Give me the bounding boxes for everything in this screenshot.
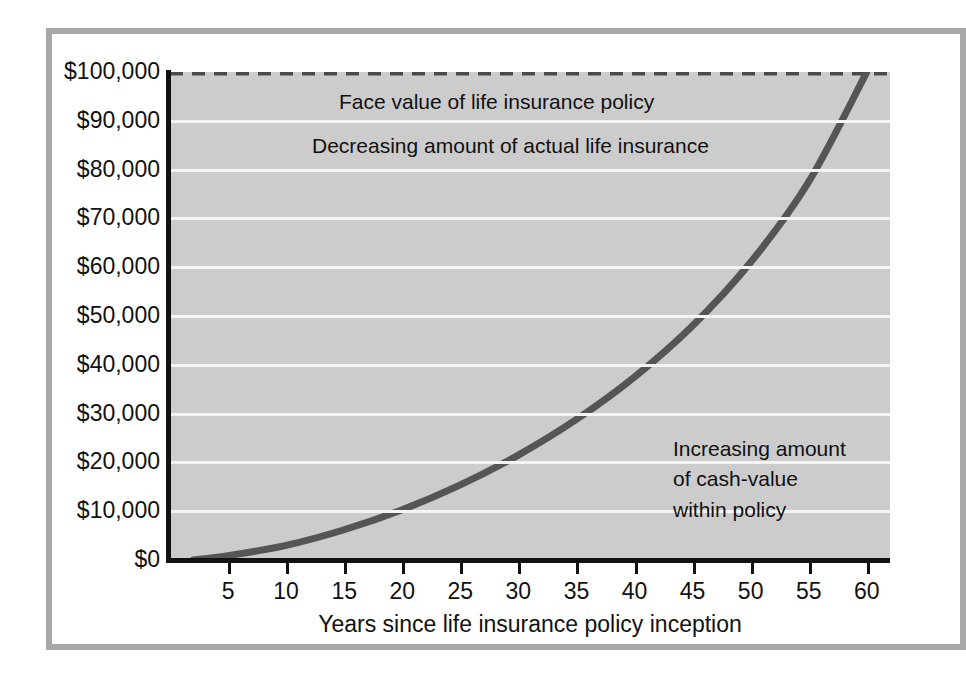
y-axis-label: $20,000: [10, 450, 160, 473]
y-axis-label: $100,000: [10, 60, 160, 83]
annotation-increasing-cash-value: Increasing amount of cash-value within p…: [673, 434, 846, 525]
x-axis-label: 60: [837, 578, 897, 605]
y-axis-label: $70,000: [10, 206, 160, 229]
x-axis-tick: [286, 563, 289, 574]
y-axis-label: $30,000: [10, 402, 160, 425]
x-axis-tick: [751, 563, 754, 574]
x-axis-tick: [228, 563, 231, 574]
x-axis-label: 15: [314, 578, 374, 605]
y-axis-label: $80,000: [10, 158, 160, 181]
annotation-decreasing-insurance: Decreasing amount of actual life insuran…: [312, 131, 709, 161]
x-axis-tick: [518, 563, 521, 574]
gridline: [170, 315, 890, 318]
x-axis-tick: [809, 563, 812, 574]
gridline: [170, 217, 890, 220]
x-axis-label: 55: [779, 578, 839, 605]
plot-area: Face value of life insurance policy Decr…: [170, 72, 890, 560]
x-axis-tick: [576, 563, 579, 574]
y-axis-line: [166, 70, 171, 562]
x-axis-label: 35: [546, 578, 606, 605]
gridline: [170, 413, 890, 416]
y-axis-label: $0: [10, 548, 160, 571]
y-axis-label: $10,000: [10, 499, 160, 522]
y-axis-label: $90,000: [10, 109, 160, 132]
x-axis-tick: [635, 563, 638, 574]
gridline: [170, 266, 890, 269]
x-axis-label: 5: [198, 578, 258, 605]
gridline: [170, 169, 890, 172]
x-axis-line: [166, 558, 890, 563]
x-axis-tick: [460, 563, 463, 574]
gridline: [170, 120, 890, 123]
x-axis-label: 25: [430, 578, 490, 605]
x-axis-label: 20: [372, 578, 432, 605]
y-axis-labels-group: $0$10,000$20,000$30,000$40,000$50,000$60…: [8, 0, 160, 673]
y-axis-label: $40,000: [10, 353, 160, 376]
x-axis-label: 50: [721, 578, 781, 605]
x-axis-label: 40: [605, 578, 665, 605]
x-axis-title: Years since life insurance policy incept…: [170, 611, 890, 638]
y-axis-label: $50,000: [10, 304, 160, 327]
x-axis-tick: [402, 563, 405, 574]
gridline: [170, 364, 890, 367]
x-axis-label: 30: [488, 578, 548, 605]
x-axis-tick: [867, 563, 870, 574]
x-axis-label: 45: [663, 578, 723, 605]
annotation-face-value: Face value of life insurance policy: [339, 87, 654, 117]
y-axis-label: $60,000: [10, 255, 160, 278]
x-axis-tick: [693, 563, 696, 574]
x-axis-tick: [344, 563, 347, 574]
x-axis-label: 10: [256, 578, 316, 605]
